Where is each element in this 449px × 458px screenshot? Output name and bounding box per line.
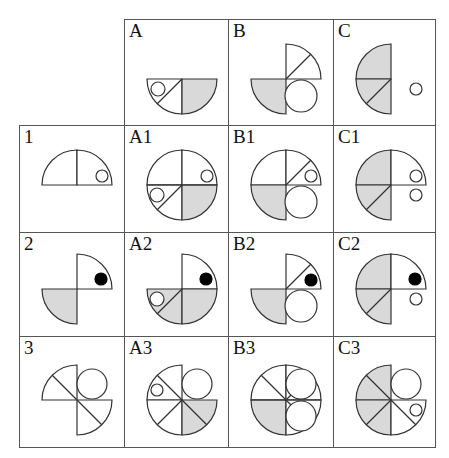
figure-a3 bbox=[125, 337, 230, 449]
cell-b3: B3 bbox=[228, 336, 334, 448]
small-circle-icon bbox=[151, 384, 163, 396]
quadrant-wedge-bl bbox=[251, 185, 286, 220]
small-circle-icon bbox=[285, 290, 317, 322]
small-circle-icon bbox=[182, 369, 212, 399]
figure-c bbox=[334, 20, 437, 127]
cell-a2: A2 bbox=[124, 232, 229, 337]
quadrant-wedge-bl bbox=[251, 400, 286, 435]
small-circle-icon bbox=[77, 369, 107, 399]
small-circle-icon bbox=[410, 170, 422, 182]
figure-b2 bbox=[229, 233, 335, 338]
quadrant-wedge-tl bbox=[356, 254, 391, 289]
cell-b: B bbox=[228, 19, 334, 126]
figure-2 bbox=[20, 233, 126, 338]
cell-a: A bbox=[124, 19, 229, 126]
figure-1 bbox=[20, 126, 126, 234]
figure-b1 bbox=[229, 126, 335, 234]
quadrant-wedge-bl bbox=[251, 289, 286, 324]
cell-a1: A1 bbox=[124, 125, 229, 233]
figure-c3 bbox=[334, 337, 437, 449]
quadrant-wedge-tr bbox=[391, 254, 426, 289]
figure-3 bbox=[20, 337, 126, 449]
quadrant-wedge-tl bbox=[251, 150, 286, 185]
quadrant-wedge-br bbox=[182, 79, 217, 114]
small-circle-icon bbox=[150, 188, 164, 202]
cell-c1: C1 bbox=[333, 125, 436, 233]
small-circle-icon bbox=[150, 292, 164, 306]
quadrant-wedge-br bbox=[182, 289, 217, 324]
cell-b2: B2 bbox=[228, 232, 334, 337]
cell-3: 3 bbox=[19, 336, 125, 448]
small-circle-icon bbox=[96, 170, 108, 182]
quadrant-wedge-tl bbox=[356, 150, 391, 185]
puzzle-grid: ABC1A1B1C12A2B2C23A3B3C3 bbox=[0, 0, 449, 458]
quadrant-wedge-bl bbox=[251, 79, 286, 114]
figure-a bbox=[125, 20, 230, 127]
small-circle-icon bbox=[391, 369, 421, 399]
small-circle-icon bbox=[286, 401, 316, 431]
quadrant-wedge-tl bbox=[147, 150, 182, 185]
figure-b3 bbox=[229, 337, 335, 449]
small-circle-icon bbox=[285, 186, 317, 218]
cell-a3: A3 bbox=[124, 336, 229, 448]
small-circle-icon bbox=[410, 404, 422, 416]
quadrant-wedge-tl bbox=[356, 44, 391, 79]
cell-c3: C3 bbox=[333, 336, 436, 448]
cell-2: 2 bbox=[19, 232, 125, 337]
figure-b bbox=[229, 20, 335, 127]
cell-1: 1 bbox=[19, 125, 125, 233]
quadrant-wedge-tr bbox=[77, 254, 112, 289]
quadrant-wedge-tr bbox=[182, 254, 217, 289]
quadrant-wedge-tl bbox=[42, 150, 77, 185]
cell-b1: B1 bbox=[228, 125, 334, 233]
small-circle-icon bbox=[410, 189, 422, 201]
filled-dot-icon bbox=[305, 274, 317, 286]
figure-c2 bbox=[334, 233, 437, 338]
filled-dot-icon bbox=[409, 273, 421, 285]
filled-dot-icon bbox=[95, 273, 107, 285]
small-circle-icon bbox=[305, 170, 317, 182]
small-circle-icon bbox=[285, 80, 317, 112]
figure-a1 bbox=[125, 126, 230, 234]
small-circle-icon bbox=[410, 83, 422, 95]
quadrant-wedge-bl bbox=[42, 289, 77, 324]
small-circle-icon bbox=[286, 369, 316, 399]
small-circle-icon bbox=[410, 293, 422, 305]
small-circle-icon bbox=[201, 170, 213, 182]
small-circle-icon bbox=[151, 82, 165, 96]
figure-c1 bbox=[334, 126, 437, 234]
figure-a2 bbox=[125, 233, 230, 338]
cell-c2: C2 bbox=[333, 232, 436, 337]
cell-c: C bbox=[333, 19, 436, 126]
filled-dot-icon bbox=[200, 273, 212, 285]
quadrant-wedge-br bbox=[182, 185, 217, 220]
